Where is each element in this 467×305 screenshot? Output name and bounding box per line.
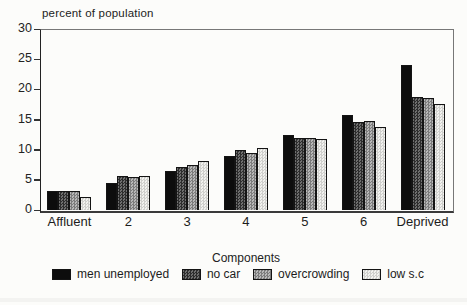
legend-label: overcrowding: [278, 267, 349, 281]
bar-low-s-c-5: [316, 139, 327, 210]
bar-low-s-c-6: [375, 127, 386, 210]
x-category-label-5: 5: [275, 214, 334, 229]
legend-item-men-unemployed: men unemployed: [52, 267, 169, 281]
y-tick-label: 0: [6, 202, 32, 216]
y-tick-mark: [34, 149, 40, 151]
legend-item-overcrowding: overcrowding: [253, 267, 349, 281]
x-axis-title: Components: [40, 251, 452, 265]
legend-item-low-s-c: low s.c: [362, 267, 424, 281]
deprivation-components-bar-chart: percent of population 051015202530 Afflu…: [0, 0, 467, 305]
legend-swatch-checker-medium: [253, 269, 272, 280]
bar-no-car-3: [176, 167, 187, 210]
bar-no-car-6: [353, 122, 364, 210]
legend-swatch-checker-light: [362, 269, 381, 280]
y-tick-label: 15: [6, 112, 32, 126]
legend-item-no-car: no car: [182, 267, 240, 281]
legend-swatch-solid: [52, 269, 71, 280]
bar-low-s-c-affluent: [80, 197, 91, 210]
legend-label: men unemployed: [77, 267, 169, 281]
y-tick-mark: [34, 210, 40, 212]
y-tick-mark: [34, 29, 40, 31]
y-tick-label: 10: [6, 142, 32, 156]
bar-men-unemployed-deprived: [401, 65, 412, 210]
y-tick-label: 20: [6, 81, 32, 95]
bar-men-unemployed-4: [224, 156, 235, 210]
bar-no-car-deprived: [412, 97, 423, 210]
bar-overcrowding-affluent: [69, 191, 80, 210]
y-tick-label: 25: [6, 51, 32, 65]
bar-no-car-2: [117, 176, 128, 210]
bar-men-unemployed-3: [165, 171, 176, 210]
bar-overcrowding-2: [128, 177, 139, 210]
legend: men unemployedno carovercrowdinglow s.c: [52, 267, 424, 281]
x-category-label-2: 2: [99, 214, 158, 229]
bar-low-s-c-2: [139, 176, 150, 210]
bar-low-s-c-deprived: [434, 104, 445, 210]
x-category-label-affluent: Affluent: [40, 214, 99, 229]
x-category-label-4: 4: [217, 214, 276, 229]
y-tick-mark: [34, 59, 40, 61]
bar-overcrowding-6: [364, 121, 375, 210]
bar-overcrowding-3: [187, 165, 198, 210]
bar-low-s-c-4: [257, 148, 268, 210]
bar-no-car-4: [235, 150, 246, 210]
y-tick-mark: [34, 179, 40, 181]
x-category-label-deprived: Deprived: [393, 214, 452, 229]
bar-overcrowding-deprived: [423, 98, 434, 210]
y-tick-label: 30: [6, 21, 32, 35]
bar-men-unemployed-2: [106, 183, 117, 210]
x-category-label-3: 3: [158, 214, 217, 229]
bar-men-unemployed-6: [342, 115, 353, 210]
y-tick-label: 5: [6, 172, 32, 186]
bar-low-s-c-3: [198, 161, 209, 210]
legend-swatch-checker-dark: [182, 269, 201, 280]
bar-overcrowding-4: [246, 153, 257, 210]
bar-no-car-5: [294, 138, 305, 210]
x-category-label-6: 6: [334, 214, 393, 229]
legend-label: low s.c: [387, 267, 424, 281]
bar-no-car-affluent: [58, 191, 69, 210]
scan-artifact-band: [0, 298, 467, 302]
bar-men-unemployed-affluent: [47, 191, 58, 210]
y-tick-mark: [34, 89, 40, 91]
y-tick-mark: [34, 119, 40, 121]
bar-men-unemployed-5: [283, 135, 294, 210]
y-axis-title: percent of population: [42, 7, 154, 19]
bar-overcrowding-5: [305, 138, 316, 210]
legend-label: no car: [207, 267, 240, 281]
